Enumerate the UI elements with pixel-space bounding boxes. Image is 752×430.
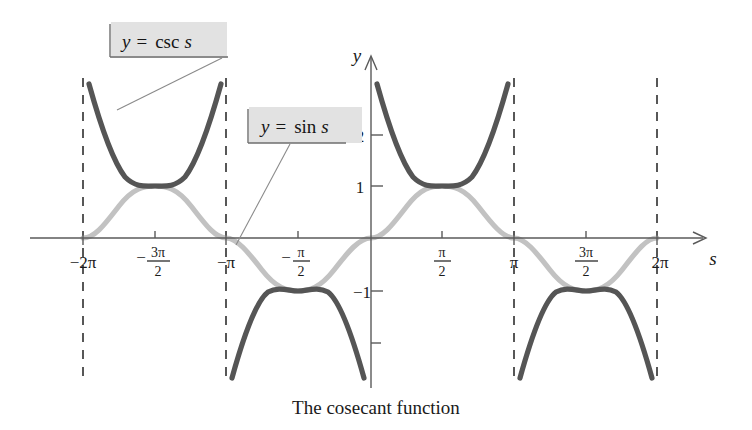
csc-branch-4	[520, 289, 652, 378]
x-tick-label-3pi-2-denominator: 2	[583, 264, 590, 279]
x-tick-label-minus-pi-2: − π 2	[281, 245, 310, 279]
x-tick-label-minus-2pi: −2π	[70, 253, 97, 272]
csc-branch-2	[232, 289, 364, 378]
x-tick-label-pi-2-numerator: π	[438, 245, 445, 260]
x-tick-label-minus-pi-2-sign: −	[281, 248, 291, 267]
x-tick-label-minus-3pi-2-sign: −	[136, 248, 146, 267]
x-tick-label-2pi: 2π	[651, 253, 669, 272]
x-tick-label-minus-pi-2-denominator: 2	[298, 264, 305, 279]
x-tick-label-pi-2: π 2	[434, 245, 451, 279]
x-tick-label-3pi-2-numerator: 3π	[579, 245, 593, 260]
csc-callout-leader	[117, 58, 222, 110]
x-axis-label: s	[709, 248, 716, 269]
y-axis	[365, 56, 377, 388]
sin-callout-eq: =	[275, 116, 286, 137]
csc-branch-3	[377, 84, 508, 186]
csc-callout-lhs: y	[120, 31, 131, 52]
x-tick-label-3pi-2: 3π 2	[575, 245, 598, 279]
sin-callout-arg: s	[321, 116, 328, 137]
y-tick-labels: 2 1 −1	[353, 127, 371, 302]
cosecant-plot: −2π − 3π 2 −π − π 2 π 2 π 3π	[0, 0, 752, 430]
sin-callout-lhs: y	[259, 116, 270, 137]
x-tick-label-minus-3pi-2-denominator: 2	[155, 264, 162, 279]
csc-callout-arg: s	[184, 31, 191, 52]
y-axis-label: y	[351, 45, 362, 66]
x-tick-label-pi: π	[510, 253, 519, 272]
figure-caption: The cosecant function	[292, 397, 460, 418]
csc-branch-1	[89, 84, 221, 186]
sin-callout: y=sins	[236, 107, 362, 245]
sin-callout-leader	[236, 144, 290, 245]
csc-callout: y=cscs	[110, 22, 228, 110]
asymptote-group	[83, 78, 657, 381]
x-tick-label-minus-3pi-2-numerator: 3π	[151, 245, 165, 260]
sin-callout-fn: sin	[294, 116, 317, 137]
y-tick-label-minus-1: −1	[353, 283, 371, 302]
x-tick-label-pi-2-denominator: 2	[439, 264, 446, 279]
y-tick-label-1: 1	[356, 178, 365, 197]
csc-callout-eq: =	[136, 31, 147, 52]
x-tick-label-minus-pi: −π	[217, 253, 236, 272]
cosecant-figure: −2π − 3π 2 −π − π 2 π 2 π 3π	[0, 0, 752, 430]
x-tick-labels: −2π − 3π 2 −π − π 2 π 2 π 3π	[70, 245, 669, 279]
csc-callout-fn: csc	[155, 31, 179, 52]
x-tick-label-minus-3pi-2: − 3π 2	[136, 245, 170, 279]
x-tick-label-minus-pi-2-numerator: π	[297, 245, 304, 260]
x-axis	[30, 232, 706, 244]
